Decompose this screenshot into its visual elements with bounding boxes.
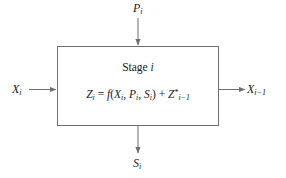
label-input-p: Pi [133, 2, 143, 14]
equation-lhs: Zi [86, 88, 95, 100]
equation-lhs-subscript: i [93, 93, 95, 102]
equation-close-paren: ) [152, 88, 156, 100]
label-output-x-prev: Xi−1 [247, 83, 266, 95]
label-input-p-subscript: i [140, 7, 142, 16]
label-output-x-prev-subscript: i−1 [254, 88, 266, 97]
stage-block-rect [58, 47, 219, 126]
label-output-s-subscript: i [139, 162, 141, 171]
stage-block-equation: Zi = f(Xi, Pi, Si) + Z*i−1 [57, 89, 219, 101]
stage-label-index: i [151, 61, 154, 73]
equation-arg-1-symbol: P [129, 88, 136, 100]
stage-label-prefix: Stage [122, 61, 148, 73]
equation-arg-2: Si [144, 88, 152, 100]
equation-equals: = [98, 88, 105, 100]
equation-term-subscript: i−1 [178, 93, 189, 102]
label-input-x-subscript: i [19, 88, 21, 97]
stage-block-title: Stage i [57, 62, 219, 74]
equation-arg-0: Xi [114, 88, 123, 100]
label-output-s: Si [133, 157, 141, 169]
stage-block-diagram: Stage i Zi = f(Xi, Pi, Si) + Z*i−1 Pi Xi… [0, 0, 286, 178]
equation-plus: + [159, 88, 166, 100]
equation-arg-1: Pi [129, 88, 138, 100]
equation-term-z-star: Z*i−1 [168, 88, 190, 100]
label-input-x: Xi [12, 83, 22, 95]
